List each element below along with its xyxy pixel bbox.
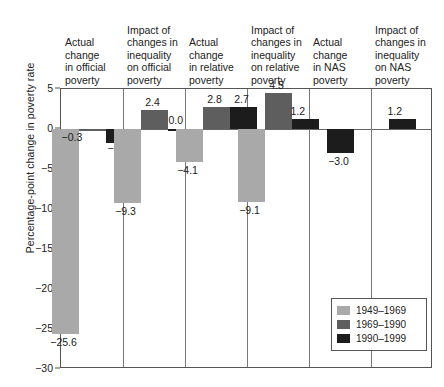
legend-swatch-icon bbox=[337, 306, 350, 315]
panel-header-line: inequality bbox=[251, 49, 306, 61]
panel-header-line: in NAS bbox=[313, 61, 368, 73]
bar-value-label: 1.2 bbox=[388, 105, 403, 117]
panel-header-line: changes in bbox=[127, 36, 182, 48]
bar-value-label: 1.2 bbox=[291, 105, 306, 117]
bar-value-label: −9.1 bbox=[239, 204, 260, 216]
legend-swatch-icon bbox=[337, 334, 350, 343]
bar-panel4-series3 bbox=[292, 119, 319, 129]
y-tick-label: −20 bbox=[35, 282, 53, 294]
legend-swatch-icon bbox=[337, 320, 350, 329]
panel-header-line: change bbox=[65, 49, 120, 61]
bar-panel3-series1 bbox=[176, 129, 203, 162]
panel-header-line: in relative bbox=[189, 61, 244, 73]
panel-header-line: poverty bbox=[127, 74, 182, 86]
poverty-change-bar-chart: Percentage-point change in poverty rate … bbox=[0, 0, 444, 387]
panel-header-line: Impact of bbox=[251, 24, 306, 36]
legend-item-label: 1969–1990 bbox=[356, 319, 406, 330]
panel-header-line: changes in bbox=[375, 36, 430, 48]
panel-header-line: changes in bbox=[251, 36, 306, 48]
bar-panel1-series1 bbox=[52, 129, 79, 334]
bar-panel6-series3 bbox=[389, 119, 416, 129]
panel-header-line: Impact of bbox=[375, 24, 430, 36]
legend-item: 1990–1999 bbox=[337, 332, 421, 345]
panel-header-line: poverty bbox=[65, 74, 120, 86]
bar-panel3-series3 bbox=[230, 107, 257, 129]
bar-panel3-series2 bbox=[203, 107, 230, 129]
bar-value-label: 2.4 bbox=[145, 96, 160, 108]
panel-header-line: poverty bbox=[189, 74, 244, 86]
panel-header-line: inequality bbox=[127, 49, 182, 61]
bar-value-label: 4.5 bbox=[269, 79, 284, 91]
bar-value-label: 2.7 bbox=[234, 93, 249, 105]
legend-item-label: 1990–1999 bbox=[356, 333, 406, 344]
bar-value-label: −9.3 bbox=[115, 205, 136, 217]
bar-panel4-series2 bbox=[265, 93, 292, 129]
bar-panel4-series1 bbox=[238, 129, 265, 202]
panel-header-line: poverty bbox=[313, 74, 368, 86]
panel-header-5: Actualchangein NASpoverty bbox=[313, 36, 368, 86]
y-tick-label: −10 bbox=[35, 202, 53, 214]
panel-header-line: on relative bbox=[251, 61, 306, 73]
y-tick-label: −15 bbox=[35, 242, 53, 254]
panel-header-line: Actual bbox=[65, 36, 120, 48]
panel-header-line: change bbox=[189, 49, 244, 61]
panel-header-line: poverty bbox=[375, 74, 430, 86]
bar-value-label: −3.0 bbox=[328, 155, 349, 167]
panel-header-line: on NAS bbox=[375, 61, 430, 73]
panel-header-line: in official bbox=[65, 61, 120, 73]
panel-header-line: Impact of bbox=[127, 24, 182, 36]
bar-value-label: −4.1 bbox=[177, 164, 198, 176]
bar-panel2-series2 bbox=[141, 110, 168, 129]
panel-header-line: Actual bbox=[313, 36, 368, 48]
panel-header-6: Impact ofchanges ininequalityon NASpover… bbox=[375, 24, 430, 86]
y-tick-label: 5 bbox=[47, 82, 53, 94]
y-tick-label: −30 bbox=[35, 362, 53, 374]
panel-header-line: on official bbox=[127, 61, 182, 73]
panel-header-line: Actual bbox=[189, 36, 244, 48]
panel-header-line: change bbox=[313, 49, 368, 61]
panel-header-2: Impact ofchanges ininequalityon official… bbox=[127, 24, 182, 86]
panel-header-3: Actualchangein relativepoverty bbox=[189, 36, 244, 86]
panel-header-4: Impact ofchanges ininequalityon relative… bbox=[251, 24, 306, 86]
legend-item: 1949–1969 bbox=[337, 304, 421, 317]
bar-panel5-series3 bbox=[327, 129, 354, 153]
legend-item: 1969–1990 bbox=[337, 318, 421, 331]
panel-headers: Actualchangein officialpovertyImpact ofc… bbox=[60, 18, 432, 88]
panel-header-line: inequality bbox=[375, 49, 430, 61]
bar-value-label: 2.8 bbox=[207, 93, 222, 105]
bar-value-label: 0.0 bbox=[169, 114, 184, 126]
panel-separator bbox=[309, 89, 310, 367]
legend: 1949–1969 1969–1990 1990–1999 bbox=[331, 298, 427, 351]
legend-item-label: 1949–1969 bbox=[356, 305, 406, 316]
bar-value-label: −25.6 bbox=[50, 336, 77, 348]
y-tick-label: −25 bbox=[35, 322, 53, 334]
bar-panel2-series1 bbox=[114, 129, 141, 203]
bar-value-label: −0.3 bbox=[62, 131, 83, 143]
panel-header-1: Actualchangein officialpoverty bbox=[65, 36, 120, 86]
bar-panel1-series2 bbox=[79, 129, 106, 131]
